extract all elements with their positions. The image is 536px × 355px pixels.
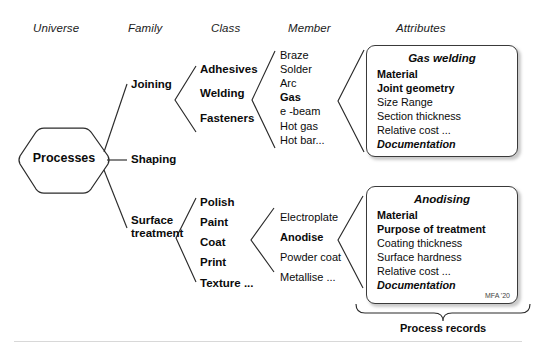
member-electroplate: Electroplate	[280, 211, 338, 223]
column-header-member: Member	[288, 22, 331, 34]
bracket-coat-members	[251, 208, 274, 272]
column-header-family: Family	[128, 22, 162, 34]
card-row-section-thickness: Section thickness	[377, 110, 517, 122]
class-texture: Texture ...	[200, 277, 253, 289]
card-row-relative-cost: Relative cost ...	[377, 124, 517, 136]
column-header-attributes: Attributes	[396, 22, 446, 34]
class-polish: Polish	[200, 196, 235, 208]
column-header-universe: Universe	[33, 22, 79, 34]
credit-label: MFA '20	[485, 292, 510, 299]
card-row-purpose-of-treatment: Purpose of treatment	[377, 223, 517, 235]
class-coat: Coat	[200, 236, 226, 248]
process-records-caption: Process records	[400, 322, 486, 334]
card-row-documentation: Documentation	[377, 138, 517, 150]
card-row-size-range: Size Range	[377, 96, 517, 108]
family-surface-treatment-line1: Surface	[131, 214, 183, 227]
member-braze: Braze	[280, 49, 309, 61]
family-surface-treatment-line2: treatment	[131, 227, 183, 240]
branch-surface	[104, 170, 127, 228]
card-row-coating-thickness: Coating thickness	[377, 237, 517, 249]
card-row-surface-hardness: Surface hardness	[377, 251, 517, 263]
family-surface-treatment: Surface treatment	[131, 214, 183, 240]
family-joining: Joining	[131, 78, 172, 91]
member-solder: Solder	[280, 63, 312, 75]
member-e-beam: e -beam	[280, 105, 320, 117]
bracket-surface-classes	[176, 198, 196, 282]
processes-label: Processes	[25, 151, 103, 165]
diagram-canvas: Universe Family Class Member Attributes …	[0, 0, 536, 355]
member-gas: Gas	[280, 91, 301, 103]
member-hot-bar: Hot bar...	[280, 134, 325, 146]
member-arc: Arc	[280, 77, 297, 89]
family-shaping: Shaping	[131, 153, 176, 166]
class-welding: Welding	[200, 87, 245, 99]
column-header-class: Class	[211, 22, 240, 34]
member-powder-coat: Powder coat	[280, 251, 341, 263]
class-adhesives: Adhesives	[200, 63, 258, 75]
member-hot-gas: Hot gas	[280, 120, 318, 132]
card-row-material-2: Material	[377, 209, 517, 221]
card-row-material: Material	[377, 68, 517, 80]
card-row-documentation-2: Documentation	[377, 279, 517, 291]
card-title-anodising: Anodising	[367, 193, 517, 205]
class-print: Print	[200, 256, 226, 268]
process-records-brace	[356, 304, 530, 321]
member-anodise: Anodise	[280, 231, 323, 243]
class-paint: Paint	[200, 216, 228, 228]
card-row-joint-geometry: Joint geometry	[377, 82, 517, 94]
bottom-divider	[14, 341, 522, 342]
member-metallise: Metallise ...	[280, 271, 336, 283]
class-fasteners: Fasteners	[200, 112, 254, 124]
bracket-anodise-attributes	[338, 196, 363, 288]
attributes-card-anodising: Anodising Material Purpose of treatment …	[366, 186, 518, 304]
bracket-joining-classes	[175, 66, 196, 132]
card-title-gas-welding: Gas welding	[367, 52, 517, 64]
branch-joining	[104, 84, 127, 152]
bracket-gas-attributes	[338, 50, 364, 152]
attributes-card-gas-welding: Gas welding Material Joint geometry Size…	[366, 45, 518, 157]
card-row-relative-cost-2: Relative cost ...	[377, 265, 517, 277]
